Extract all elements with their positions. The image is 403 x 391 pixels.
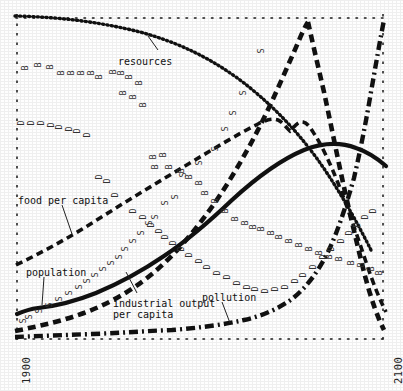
marker-birth-rate: B — [128, 94, 138, 99]
marker-services-per-capita: S — [120, 246, 130, 251]
curve-population — [17, 144, 386, 314]
marker-services-per-capita: S — [128, 238, 138, 243]
marker-birth-rate: B — [304, 246, 314, 251]
marker-death-rate: D — [298, 272, 308, 277]
marker-death-rate: D — [160, 234, 170, 239]
marker-services-per-capita: S — [228, 110, 238, 115]
marker-death-rate: D — [36, 120, 46, 125]
marker-services-per-capita: S — [136, 230, 146, 235]
marker-death-rate: D — [318, 254, 328, 259]
marker-death-rate: D — [194, 258, 204, 263]
marker-birth-rate: B — [294, 242, 304, 247]
marker-death-rate: D — [308, 264, 318, 269]
marker-services-per-capita: S — [74, 284, 84, 289]
curve-pollution — [15, 20, 384, 337]
marker-birth-rate: B — [334, 256, 344, 261]
label-food-per-capita: food per capita — [18, 195, 108, 206]
marker-services-per-capita: S — [150, 214, 160, 219]
marker-services-per-capita: S — [114, 254, 124, 259]
marker-death-rate: D — [176, 246, 186, 251]
marker-death-rate: D — [212, 270, 222, 275]
marker-birth-rate: B — [210, 198, 220, 203]
marker-birth-rate: B — [220, 208, 230, 213]
marker-death-rate: D — [336, 238, 346, 243]
marker-death-rate: D — [26, 120, 36, 125]
marker-birth-rate: B — [134, 80, 144, 85]
marker-death-rate: D — [260, 288, 270, 293]
marker-services-per-capita: S — [82, 278, 92, 283]
marker-birth-rate: B — [138, 102, 148, 107]
marker-death-rate: D — [368, 208, 378, 213]
marker-birth-rate: B — [374, 270, 384, 275]
x-axis-label-left: 1900 — [20, 357, 32, 384]
label-pollution: pollution — [202, 292, 256, 303]
marker-services-per-capita: S — [170, 194, 180, 199]
marker-services-per-capita: S — [64, 290, 74, 295]
marker-services-per-capita: S — [178, 172, 188, 177]
marker-birth-rate: B — [164, 164, 174, 169]
marker-death-rate: D — [344, 230, 354, 235]
marker-services-per-capita: S — [220, 126, 230, 131]
leader-resources — [148, 36, 158, 50]
marker-birth-rate: B — [230, 216, 240, 221]
label-population: population — [26, 267, 86, 278]
marker-death-rate: D — [360, 214, 370, 219]
label-industrial-output: industrial output per capita — [113, 298, 215, 320]
marker-death-rate: D — [202, 264, 212, 269]
marker-services-per-capita: S — [106, 260, 116, 265]
marker-death-rate: D — [250, 286, 260, 291]
marker-death-rate: D — [138, 214, 148, 219]
marker-birth-rate: B — [66, 70, 76, 75]
marker-birth-rate: B — [256, 226, 266, 231]
marker-birth-rate: B — [33, 62, 43, 67]
leader-pollution — [222, 302, 230, 323]
marker-death-rate: D — [82, 132, 92, 137]
leader-food — [62, 205, 72, 234]
marker-birth-rate: B — [56, 70, 66, 75]
marker-death-rate: D — [222, 274, 232, 279]
marker-services-per-capita: S — [256, 48, 266, 53]
marker-services-per-capita: S — [238, 90, 248, 95]
marker-birth-rate: B — [194, 180, 204, 185]
marker-services-per-capita: S — [160, 200, 170, 205]
label-resources: resources — [118, 56, 172, 67]
marker-birth-rate: B — [274, 234, 284, 239]
curve-resources — [15, 16, 372, 252]
marker-services-per-capita: S — [98, 266, 108, 271]
marker-death-rate: D — [102, 178, 112, 183]
curve-industrial-output — [15, 22, 308, 331]
marker-death-rate: D — [154, 228, 164, 233]
marker-death-rate: D — [326, 246, 336, 251]
marker-death-rate: D — [168, 240, 178, 245]
marker-birth-rate: B — [124, 74, 134, 79]
marker-services-per-capita: S — [210, 146, 220, 151]
marker-death-rate: D — [290, 278, 300, 283]
marker-services-per-capita: S — [44, 302, 54, 307]
marker-birth-rate: B — [284, 238, 294, 243]
marker-birth-rate: B — [150, 164, 160, 169]
marker-death-rate: D — [232, 280, 242, 285]
marker-birth-rate: B — [346, 260, 356, 265]
marker-death-rate: D — [184, 252, 194, 257]
marker-services-per-capita: S — [18, 318, 28, 323]
marker-birth-rate: B — [158, 152, 168, 157]
marker-death-rate: D — [128, 208, 138, 213]
marker-services-per-capita: S — [90, 272, 100, 277]
curve-food-per-capita — [16, 119, 386, 312]
marker-birth-rate: B — [200, 190, 210, 195]
marker-death-rate: D — [280, 284, 290, 289]
marker-death-rate: D — [16, 120, 26, 125]
marker-birth-rate: B — [356, 262, 366, 267]
marker-services-per-capita: S — [194, 160, 204, 165]
marker-services-per-capita: S — [144, 220, 154, 225]
marker-birth-rate: B — [20, 65, 30, 70]
marker-birth-rate: B — [118, 90, 128, 95]
marker-death-rate: D — [270, 286, 280, 291]
figure-canvas: 1900 2100 resources food per capita popu… — [0, 0, 403, 391]
marker-death-rate: D — [352, 222, 362, 227]
leader-population — [42, 277, 44, 305]
marker-death-rate: D — [54, 124, 64, 129]
marker-services-per-capita: S — [34, 308, 44, 313]
marker-services-per-capita: S — [54, 296, 64, 301]
marker-death-rate: D — [72, 128, 82, 133]
